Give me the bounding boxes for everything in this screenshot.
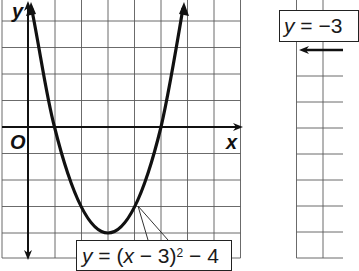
label-leader	[138, 206, 168, 240]
eq1-rest: − 3)	[134, 244, 177, 267]
origin-label: O	[10, 131, 26, 154]
y-axis-label: y	[12, 0, 23, 23]
eq1-y: y	[82, 244, 93, 267]
eq1-x: x	[123, 244, 134, 267]
eq1-mid: = (	[93, 244, 124, 267]
eq1-tail: − 4	[183, 244, 219, 267]
parabola-curve	[32, 8, 184, 233]
eq2-rest: = −3	[295, 14, 343, 37]
equation-label-line: y = −3	[279, 10, 359, 42]
eq1-exponent: 2	[177, 246, 184, 260]
x-axis-label: x	[226, 131, 237, 154]
equation-label-parabola: y = (x − 3)2 − 4	[76, 240, 232, 271]
eq2-y: y	[284, 14, 295, 37]
